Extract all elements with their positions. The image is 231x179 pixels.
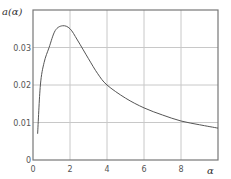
y-tick-label: 0.01 [13, 119, 31, 128]
x-tick-label: 8 [178, 165, 183, 174]
y-tick-label: 0.03 [13, 44, 31, 53]
y-tick-label: 0.02 [13, 81, 31, 90]
x-tick-label: 2 [67, 165, 72, 174]
x-tick-label: 0 [30, 165, 35, 174]
x-tick-label: 6 [141, 165, 146, 174]
y-axis-label: a(α) [2, 6, 23, 17]
x-axis-label: α [207, 165, 214, 176]
x-tick-labels: 02468 [30, 165, 183, 174]
y-tick-labels: 00.010.020.03 [13, 44, 31, 166]
grid [33, 10, 218, 160]
y-tick-label: 0 [26, 156, 31, 165]
series-line [38, 26, 218, 134]
x-tick-label: 4 [104, 165, 109, 174]
line-chart: 00.010.020.03 02468 a(α) α [0, 0, 231, 179]
